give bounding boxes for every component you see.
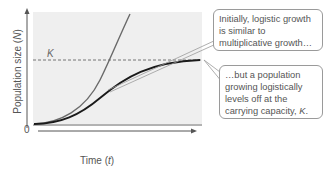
exponential-curve [34,14,130,124]
y-axis-arrow-icon [25,8,30,14]
origin-label: 0 [24,124,30,135]
x-axis-arrow-icon [191,129,197,134]
x-axis-label: Time (t) [80,155,114,166]
callout-initial-growth: Initially, logistic growth is similar to… [213,9,323,51]
k-label: K [47,48,54,59]
logistic-curve [34,60,200,124]
callout-carrying-capacity: …but a population growing logistically l… [219,65,323,119]
y-axis-label: Population size (N) [12,27,23,117]
